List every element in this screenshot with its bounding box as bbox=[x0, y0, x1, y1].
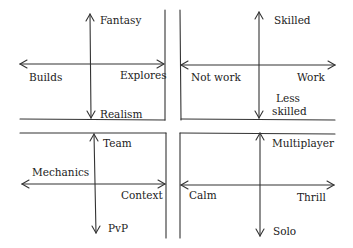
divider-top-right-bottom bbox=[181, 119, 335, 120]
label-team: Team bbox=[103, 138, 132, 149]
label-calm: Calm bbox=[189, 190, 217, 201]
label-skilled-less: skilled bbox=[272, 106, 307, 117]
label-explores: Explores bbox=[120, 70, 167, 81]
label-fantasy: Fantasy bbox=[100, 15, 141, 26]
label-less: Less bbox=[276, 93, 300, 104]
label-pvp: PvP bbox=[108, 223, 128, 234]
label-context: Context bbox=[121, 190, 163, 201]
label-not-work: Not work bbox=[191, 72, 241, 83]
axes-top-left bbox=[20, 14, 164, 118]
label-thrill: Thrill bbox=[297, 192, 326, 203]
label-mechanics: Mechanics bbox=[32, 167, 89, 178]
label-work: Work bbox=[297, 72, 325, 83]
divider-top-left-bottom bbox=[20, 119, 165, 120]
label-realism: Realism bbox=[100, 109, 142, 120]
label-solo: Solo bbox=[273, 226, 296, 237]
label-multiplayer: Multiplayer bbox=[272, 138, 334, 149]
axes-top-right bbox=[181, 12, 335, 118]
label-builds: Builds bbox=[29, 72, 62, 83]
quadrant-diagram bbox=[0, 0, 353, 248]
axes-bottom-left bbox=[22, 134, 165, 233]
divider-bottom-right-top bbox=[180, 133, 335, 134]
label-skilled: Skilled bbox=[274, 15, 311, 26]
